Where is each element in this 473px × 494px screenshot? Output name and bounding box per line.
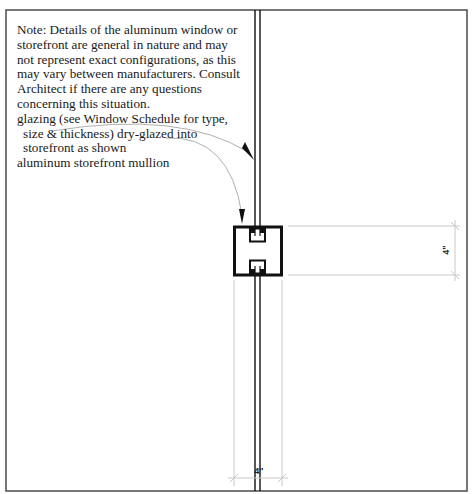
note-line: storefront are general in nature and may — [17, 38, 237, 53]
glazing-callout: storefront as shown — [17, 141, 237, 156]
general-note: Note: Details of the aluminum window or … — [17, 23, 237, 171]
horizontal-dimension — [228, 280, 288, 486]
note-line: Note: Details of the aluminum window or — [17, 23, 237, 38]
note-line: not represent exact configurations, as t… — [17, 53, 237, 68]
horizontal-dimension-label: 4" — [254, 466, 263, 476]
vertical-dimension — [288, 220, 460, 281]
vertical-dimension-label: 4" — [441, 245, 451, 254]
note-line: Architect if there are any questions — [17, 82, 237, 97]
mullion-callout: aluminum storefront mullion — [17, 156, 237, 171]
note-line: concerning this situation. — [17, 97, 237, 112]
note-line: may vary between manufacturers. Consult — [17, 67, 237, 82]
glazing-bottom — [255, 265, 260, 491]
glazing-arrowhead — [242, 142, 254, 160]
mullion-arrowhead — [239, 209, 245, 224]
aluminum-mullion — [235, 227, 282, 275]
glazing-callout: glazing (see Window Schedule for type, — [17, 112, 237, 127]
glazing-callout: size & thickness) dry-glazed into — [17, 127, 237, 142]
glazing-top — [255, 10, 260, 230]
